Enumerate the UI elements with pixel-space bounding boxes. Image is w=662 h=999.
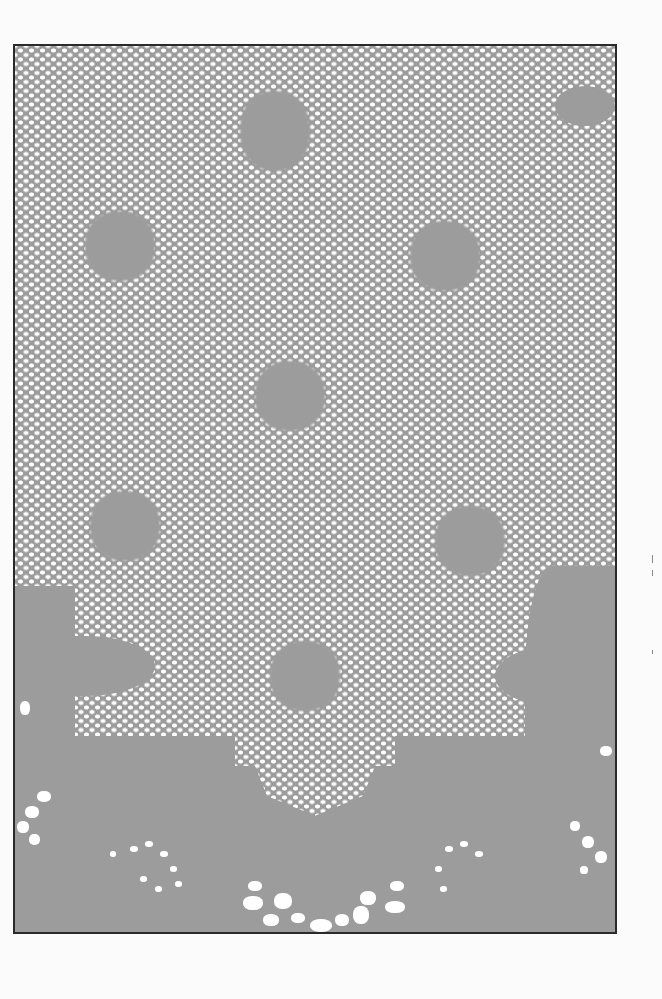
lace-motif [270, 641, 340, 711]
lace-motif [90, 491, 160, 561]
margin-mark [652, 570, 653, 576]
lace-solid-area [15, 636, 155, 696]
lace-solid-area [495, 646, 615, 706]
lace-motif [435, 506, 505, 576]
lace-motif [255, 361, 325, 431]
lace-solid-area [555, 86, 615, 126]
lace-border [395, 736, 615, 776]
margin-mark [652, 650, 653, 654]
image-frame [13, 44, 617, 934]
lace-motif [85, 211, 155, 281]
lace-motif [410, 221, 480, 291]
margin-mark [652, 555, 653, 563]
lace-motif [240, 91, 310, 171]
lace-border [15, 736, 235, 776]
